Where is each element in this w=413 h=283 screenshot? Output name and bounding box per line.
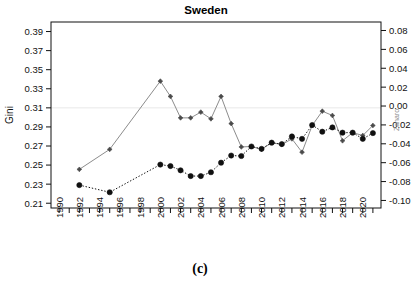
data-point-marker: [279, 141, 284, 146]
y-axis-right-tick-label: -0.04: [389, 138, 411, 149]
data-point-marker: [158, 162, 163, 167]
data-point-marker: [229, 153, 234, 158]
gini-zanaro-line-chart: Sweden 0.390.370.350.330.310.290.270.250…: [0, 0, 413, 283]
x-axis-tick-label: 1996: [114, 197, 125, 218]
y-axis-right-tick-label: 0.06: [389, 44, 408, 55]
x-axis-tick-label: 2016: [317, 197, 328, 218]
y-axis-left-tick-label: 0.35: [25, 64, 44, 75]
figure-panel: Sweden 0.390.370.350.330.310.290.270.250…: [0, 0, 413, 283]
x-axis-tick-label: 2000: [155, 197, 166, 218]
data-point-marker: [188, 173, 193, 178]
chart-title: Sweden: [184, 4, 227, 16]
y-axis-left-tick-label: 0.21: [25, 198, 44, 209]
data-point-marker: [330, 125, 335, 130]
y-axis-left-tick-label: 0.31: [25, 102, 44, 113]
x-axis-tick-label: 2002: [175, 197, 186, 218]
y-axis-left-tick-label: 0.39: [25, 26, 44, 37]
y-axis-left-label: Gini: [4, 106, 15, 124]
y-axis-right-label: Zanaro: [393, 109, 400, 131]
data-point-marker: [77, 183, 82, 188]
x-axis-tick-label: 1994: [94, 197, 105, 218]
data-point-marker: [218, 160, 223, 165]
data-point-marker: [269, 140, 274, 145]
data-point-marker: [360, 136, 365, 141]
x-axis-tick-label: 2020: [357, 197, 368, 218]
figure-caption: (c): [192, 261, 208, 277]
x-axis-tick-label: 2012: [276, 197, 287, 218]
data-point-marker: [289, 134, 294, 139]
data-point-marker: [310, 122, 315, 127]
x-axis-tick-label: 1992: [74, 197, 85, 218]
x-axis-tick-label: 2008: [236, 197, 247, 218]
y-axis-right-tick-label: 0.08: [389, 25, 408, 36]
y-axis-left-tick-label: 0.33: [25, 83, 44, 94]
data-point-marker: [168, 163, 173, 168]
data-point-marker: [340, 130, 345, 135]
data-point-marker: [320, 129, 325, 134]
x-axis-tick-label: 2010: [256, 197, 267, 218]
y-axis-right-tick-label: 0.04: [389, 63, 408, 74]
y-axis-right-tick-label: -0.08: [389, 176, 411, 187]
x-axis-tick-label: 2014: [297, 197, 308, 218]
y-axis-right-tick-label: -0.10: [389, 195, 411, 206]
y-axis-right-tick-label: 0.02: [389, 82, 408, 93]
data-point-marker: [198, 173, 203, 178]
x-axis-tick-label: 1998: [135, 197, 146, 218]
data-point-marker: [299, 136, 304, 141]
data-point-marker: [370, 131, 375, 136]
data-point-marker: [350, 130, 355, 135]
y-axis-left-tick-label: 0.29: [25, 121, 44, 132]
x-axis-tick-label: 1990: [54, 197, 65, 218]
y-axis-left-tick-label: 0.23: [25, 179, 44, 190]
x-axis-tick-label: 2018: [337, 197, 348, 218]
y-axis-left-tick-label: 0.37: [25, 45, 44, 56]
data-point-marker: [259, 146, 264, 151]
x-axis-tick-label: 2004: [195, 197, 206, 218]
data-point-marker: [208, 170, 213, 175]
data-point-marker: [178, 168, 183, 173]
y-axis-right-tick-label: -0.06: [389, 157, 411, 168]
data-point-marker: [249, 144, 254, 149]
y-axis-left-tick-label: 0.27: [25, 140, 44, 151]
y-axis-left-tick-label: 0.25: [25, 159, 44, 170]
data-point-marker: [239, 153, 244, 158]
x-axis-tick-label: 2006: [216, 197, 227, 218]
chart-background: [0, 0, 413, 283]
data-point-marker: [107, 190, 112, 195]
